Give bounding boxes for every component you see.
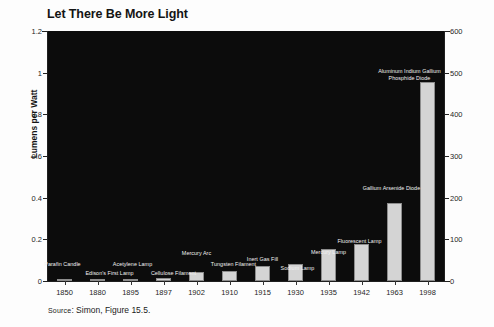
figure-container: Let There Be More Light Lumens per Watt …	[0, 0, 494, 327]
y-axis-right-tick-label: 400	[450, 110, 463, 119]
bar	[420, 82, 436, 281]
y-axis-left-tick-label: 0	[38, 277, 42, 286]
x-axis-tick-label: 1880	[89, 288, 106, 297]
bar-annotation: Cellulose Filament	[151, 270, 196, 277]
x-axis-tick-label: 1915	[254, 288, 271, 297]
bar	[354, 244, 370, 281]
y-axis-left-tick	[43, 31, 48, 32]
bar-annotation: Gallium Arsenide Diode	[363, 185, 420, 192]
x-axis	[48, 281, 444, 287]
y-axis-left-tick	[43, 198, 48, 199]
y-axis-left-tick-label: 1.2	[32, 27, 42, 36]
y-axis-right-tick	[444, 73, 449, 74]
x-axis-tick-label: 1902	[188, 288, 205, 297]
y-axis-left-tick	[43, 239, 48, 240]
y-axis-right-tick	[444, 281, 449, 282]
y-axis-left-tick-label: 0.8	[32, 110, 42, 119]
x-axis-tick-label: 1930	[287, 288, 304, 297]
source-text: : Simon, Figure 15.5.	[71, 305, 150, 315]
y-axis-right-tick-label: 0	[450, 277, 454, 286]
y-axis-left-tick	[43, 114, 48, 115]
x-axis-tick	[230, 281, 231, 285]
y-axis-left	[42, 31, 48, 281]
y-axis-right-tick	[444, 31, 449, 32]
bar-annotation: Fluorescent Lamp	[338, 238, 382, 245]
bar-annotation-line: Phosphide Diode	[378, 75, 441, 82]
bar-annotation: Aluminum Indium GalliumPhosphide Diode	[378, 68, 441, 82]
x-axis-tick	[362, 281, 363, 285]
chart-title: Let There Be More Light	[47, 7, 188, 21]
y-axis-right-tick-label: 300	[450, 152, 463, 161]
bar	[387, 203, 403, 281]
y-axis-right-tick	[444, 114, 449, 115]
y-axis-right-tick-label: 600	[450, 27, 463, 36]
y-axis-right-tick	[444, 198, 449, 199]
y-axis-title: Lumens per Watt	[29, 64, 39, 184]
source-prefix: Source	[48, 307, 71, 314]
y-axis-left-tick-label: 1	[38, 68, 42, 77]
x-axis-tick	[296, 281, 297, 285]
x-axis-tick	[263, 281, 264, 285]
source-note: Source: Simon, Figure 15.5.	[48, 305, 150, 315]
x-axis-tick-label: 1998	[419, 288, 436, 297]
bar-annotation: Parafin Candle	[44, 261, 80, 268]
x-axis-tick	[329, 281, 330, 285]
x-axis-tick	[197, 281, 198, 285]
x-axis-tick-label: 1935	[320, 288, 337, 297]
x-axis-tick	[65, 281, 66, 285]
y-axis-right-tick-label: 500	[450, 68, 463, 77]
x-axis-tick-label: 1850	[56, 288, 73, 297]
y-axis-right-tick-label: 200	[450, 193, 463, 202]
y-axis-left-tick	[43, 156, 48, 157]
y-axis-left-tick-label: 0.4	[32, 193, 42, 202]
bar-annotation: Mercury Arc	[182, 250, 211, 257]
bar	[222, 271, 238, 281]
bar-annotation: Acetylene Lamp	[113, 261, 152, 268]
y-axis-left-tick-label: 0.2	[32, 235, 42, 244]
x-axis-tick-label: 1963	[386, 288, 403, 297]
x-axis-tick	[131, 281, 132, 285]
x-axis-tick	[428, 281, 429, 285]
x-axis-tick-label: 1897	[155, 288, 172, 297]
bar-annotation-line: Aluminum Indium Gallium	[378, 68, 441, 75]
x-axis-tick	[164, 281, 165, 285]
x-axis-tick-label: 1895	[122, 288, 139, 297]
bar-annotation: Mercury Lamp	[311, 249, 346, 256]
x-axis-tick	[395, 281, 396, 285]
y-axis-right-tick	[444, 239, 449, 240]
bar-annotation: Sodium Lamp	[281, 265, 315, 272]
bar-annotation: Inert Gas Fill	[247, 256, 278, 263]
y-axis-right-tick	[444, 156, 449, 157]
y-axis-left-tick	[43, 73, 48, 74]
y-axis-right-tick-label: 100	[450, 235, 463, 244]
y-axis-left-tick-label: 0.6	[32, 152, 42, 161]
x-axis-tick-label: 1942	[353, 288, 370, 297]
x-axis-tick-label: 1910	[221, 288, 238, 297]
bar-annotation: Edison's First Lamp	[85, 270, 133, 277]
x-axis-tick	[98, 281, 99, 285]
bar	[255, 266, 271, 281]
